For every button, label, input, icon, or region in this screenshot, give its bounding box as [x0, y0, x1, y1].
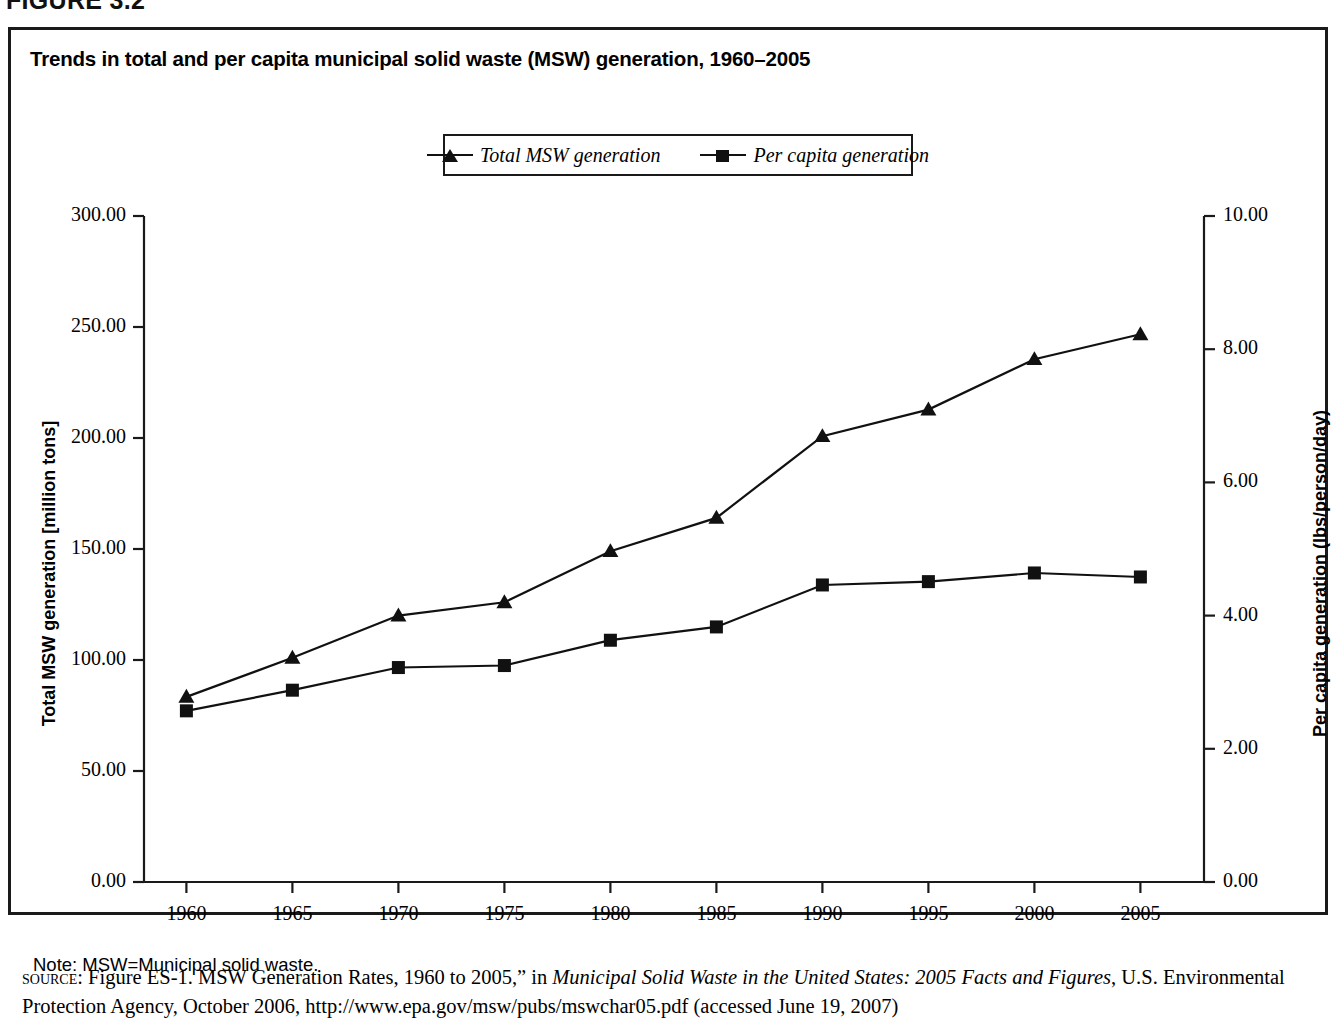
- data-point-marker: [180, 704, 193, 717]
- right-axis-title: Per capita generation (lbs/person/day): [1310, 364, 1331, 784]
- right-tick-2.00: 2.00: [1223, 736, 1333, 759]
- data-point-marker: [286, 684, 299, 697]
- left-tick-150.00: 150.00: [16, 536, 126, 559]
- left-tick-50.00: 50.00: [16, 758, 126, 781]
- data-point-marker: [604, 634, 617, 647]
- data-point-marker: [498, 659, 511, 672]
- data-point-marker: [496, 594, 512, 608]
- x-tick-1995: 1995: [883, 902, 973, 925]
- source-tag: source:: [22, 966, 83, 988]
- right-tick-8.00: 8.00: [1223, 336, 1333, 359]
- data-point-marker: [922, 575, 935, 588]
- data-point-marker: [708, 510, 724, 524]
- figure-box: Trends in total and per capita municipal…: [8, 27, 1328, 915]
- source-title: Municipal Solid Waste in the United Stat…: [552, 966, 1111, 988]
- left-tick-300.00: 300.00: [16, 203, 126, 226]
- data-point-marker: [710, 620, 723, 633]
- data-point-marker: [392, 661, 405, 674]
- left-tick-200.00: 200.00: [16, 425, 126, 448]
- chart-source: source: Figure ES-1. MSW Generation Rate…: [22, 963, 1328, 1021]
- source-pre: Figure ES-1. MSW Generation Rates, 1960 …: [83, 966, 552, 988]
- plot-canvas: [11, 30, 1331, 918]
- x-tick-2000: 2000: [989, 902, 1079, 925]
- data-point-marker: [1134, 570, 1147, 583]
- right-tick-6.00: 6.00: [1223, 469, 1333, 492]
- left-tick-100.00: 100.00: [16, 647, 126, 670]
- data-point-marker: [1132, 326, 1148, 340]
- right-tick-0.00: 0.00: [1223, 869, 1333, 892]
- x-tick-1965: 1965: [247, 902, 337, 925]
- x-tick-1985: 1985: [671, 902, 761, 925]
- plot-area: Total MSW generation [million tons] Per …: [11, 30, 1331, 918]
- x-tick-1990: 1990: [777, 902, 867, 925]
- series-line-total-msw: [186, 334, 1140, 697]
- x-tick-1980: 1980: [565, 902, 655, 925]
- right-tick-10.00: 10.00: [1223, 203, 1333, 226]
- right-tick-4.00: 4.00: [1223, 603, 1333, 626]
- x-tick-1970: 1970: [353, 902, 443, 925]
- data-point-marker: [816, 578, 829, 591]
- figure-number: FIGURE 3.2: [6, 0, 145, 15]
- x-tick-1975: 1975: [459, 902, 549, 925]
- data-point-marker: [1028, 566, 1041, 579]
- left-tick-250.00: 250.00: [16, 314, 126, 337]
- x-tick-2005: 2005: [1095, 902, 1185, 925]
- data-point-marker: [920, 402, 936, 416]
- x-tick-1960: 1960: [141, 902, 231, 925]
- left-tick-0.00: 0.00: [16, 869, 126, 892]
